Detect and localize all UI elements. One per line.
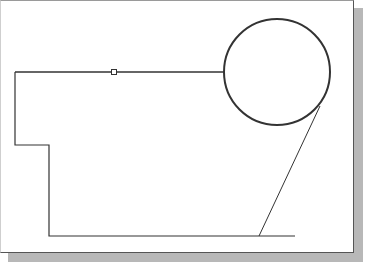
midpoint-marker-icon[interactable]	[112, 70, 117, 75]
circle-entity[interactable]	[224, 19, 330, 125]
sketch-geometry	[0, 0, 365, 262]
sketch-canvas	[0, 0, 365, 262]
tangent-line[interactable]	[259, 106, 320, 236]
profile-polyline[interactable]	[15, 72, 295, 236]
